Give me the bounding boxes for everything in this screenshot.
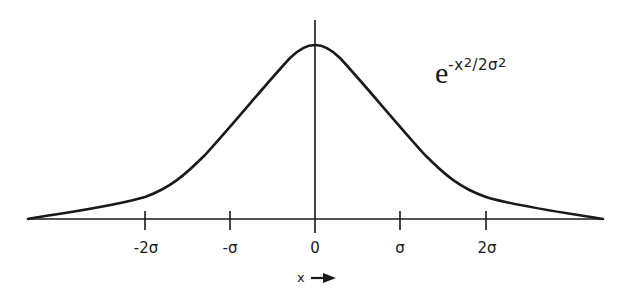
tick-label-2-sigma: 2σ: [477, 239, 496, 257]
tick-label-zero: 0: [310, 239, 320, 257]
formula-exp-part-a: -x: [448, 56, 463, 74]
tick-label-minus-sigma: -σ: [223, 239, 238, 257]
formula-exp-square-2: 2: [498, 55, 507, 70]
tick-label-minus-2-sigma: -2σ: [134, 239, 158, 257]
formula-exponent: -x2/2σ2: [448, 56, 506, 74]
gaussian-figure: -2σ -σ 0 σ 2σ e-x2/2σ2 x: [0, 0, 625, 304]
plot-canvas: [0, 0, 625, 304]
x-direction-arrow-icon: [311, 273, 336, 283]
gaussian-formula: e-x2/2σ2: [435, 56, 507, 90]
x-axis-label: x: [297, 270, 305, 285]
x-axis-label-text: x: [297, 270, 305, 285]
formula-base: e: [435, 56, 448, 89]
tick-label-sigma: σ: [395, 239, 405, 257]
formula-exp-square-1: 2: [464, 55, 473, 70]
formula-exp-part-b: /2σ: [472, 56, 498, 74]
